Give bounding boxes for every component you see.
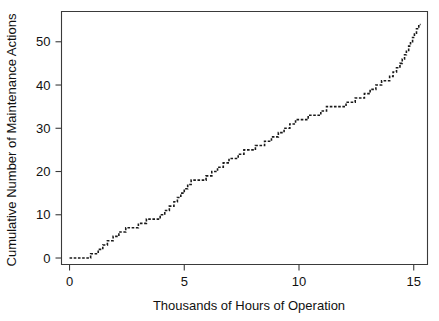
y-axis-ticks	[56, 42, 62, 258]
plot-frame	[62, 12, 428, 265]
x-tick-label-0: 0	[66, 274, 73, 289]
y-tick-label-40: 40	[36, 78, 50, 93]
data-series-step-line	[70, 24, 421, 258]
x-axis-title: Thousands of Hours of Operation	[153, 298, 345, 313]
y-tick-label-50: 50	[36, 34, 50, 49]
maintenance-actions-chart: 051015 01020304050 Thousands of Hours of…	[0, 0, 439, 321]
y-tick-label-10: 10	[36, 207, 50, 222]
chart-canvas: 051015 01020304050 Thousands of Hours of…	[0, 0, 439, 321]
x-axis-ticks	[70, 265, 414, 271]
y-axis-title: Cumulative Number of Maintenance Actions	[4, 13, 19, 266]
x-tick-label-5: 5	[181, 274, 188, 289]
y-tick-label-20: 20	[36, 164, 50, 179]
y-tick-label-30: 30	[36, 121, 50, 136]
y-tick-label-0: 0	[43, 251, 50, 266]
x-tick-label-15: 15	[406, 274, 420, 289]
cumulative-step-line	[70, 24, 421, 258]
plot-border	[62, 12, 428, 265]
x-tick-label-10: 10	[292, 274, 306, 289]
y-axis-tick-labels: 01020304050	[36, 34, 50, 265]
x-axis-tick-labels: 051015	[66, 274, 421, 289]
